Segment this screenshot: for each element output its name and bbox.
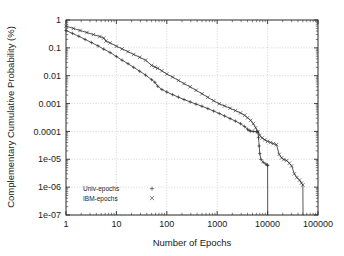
legend-label: Univ-epochs — [83, 185, 120, 193]
x-tick-label: 1000 — [207, 219, 227, 229]
y-tick-label: 0.01 — [43, 71, 61, 81]
y-tick-label: 1e-05 — [38, 154, 61, 164]
x-tick-label: 10000 — [255, 219, 280, 229]
x-tick-label: 1 — [63, 219, 68, 229]
y-axis-label: Complementary Cumulative Probability (%) — [5, 26, 16, 208]
x-tick-label: 10 — [111, 219, 121, 229]
ccdf-chart: 110100100010000100000 10.10.010.0010.000… — [0, 0, 344, 256]
y-tick-label: 1e-07 — [38, 210, 61, 220]
chart-canvas: 110100100010000100000 10.10.010.0010.000… — [0, 0, 344, 256]
x-tick-label: 100 — [159, 219, 174, 229]
y-tick-label: 0.1 — [48, 43, 61, 53]
legend-label: IBM-epochs — [83, 195, 118, 203]
y-tick-label: 0.001 — [38, 99, 61, 109]
x-axis-label: Number of Epochs — [153, 237, 232, 248]
x-tick-label: 100000 — [303, 219, 333, 229]
y-tick-label: 1e-06 — [38, 182, 61, 192]
y-tick-label: 1 — [56, 15, 61, 25]
y-tick-label: 0.0001 — [33, 127, 61, 137]
